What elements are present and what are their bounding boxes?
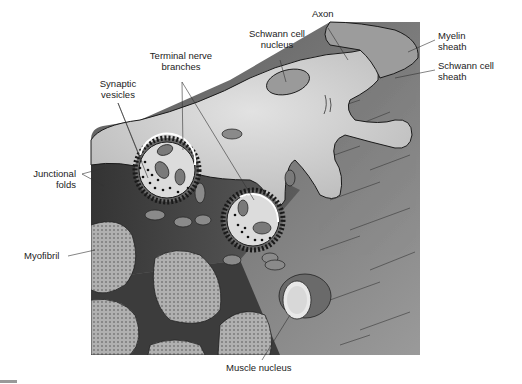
synaptic-terminal-2 — [223, 190, 283, 250]
corner-bar — [0, 380, 17, 383]
label-schwann-cell-nucleus: Schwann cell nucleus — [232, 28, 322, 50]
label-muscle-nucleus: Muscle nucleus — [226, 362, 291, 373]
label-terminal-nerve-branches: Terminal nerve branches — [135, 50, 227, 72]
label-synaptic-vesicles: Synaptic vesicles — [88, 78, 148, 100]
synaptic-terminal-1 — [135, 134, 199, 202]
label-myelin-sheath: Myelin sheath — [438, 30, 467, 52]
label-myofibril: Myofibril — [24, 250, 59, 261]
label-axon: Axon — [312, 8, 334, 19]
label-schwann-cell-sheath: Schwann cell sheath — [438, 60, 494, 82]
illustration — [0, 0, 522, 384]
neuromuscular-junction-diagram: Axon Schwann cell nucleus Myelin sheath … — [0, 0, 522, 384]
label-junctional-folds: Junctional folds — [18, 168, 76, 190]
